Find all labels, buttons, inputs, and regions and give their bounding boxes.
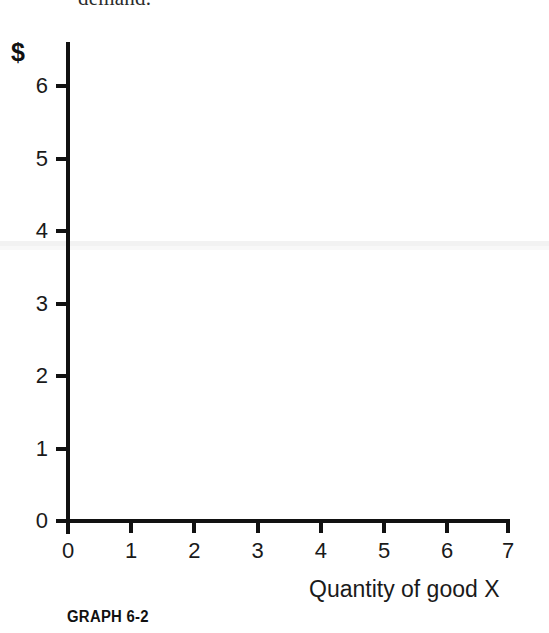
y-tick-label-3: 3 [14,293,48,315]
x-tick-0 [66,521,70,533]
y-tick-3 [56,302,68,306]
y-tick-label-2: 2 [14,365,48,387]
y-tick-label-1: 1 [14,438,48,460]
x-tick-label-4: 4 [306,540,336,562]
x-tick-3 [256,521,260,533]
y-tick-4 [56,229,68,233]
graph-caption: GRAPH 6-2 [67,609,149,625]
x-tick-label-5: 5 [369,540,399,562]
x-tick-label-3: 3 [243,540,273,562]
clipped-body-text: demand. [78,0,151,11]
x-tick-6 [445,521,449,533]
x-tick-label-6: 6 [432,540,462,562]
y-tick-label-5: 5 [14,148,48,170]
y-tick-label-0: 0 [14,510,48,532]
x-tick-label-2: 2 [179,540,209,562]
x-tick-label-0: 0 [53,540,83,562]
x-tick-5 [382,521,386,533]
x-axis-title: Quantity of good X [309,578,500,601]
x-tick-7 [506,521,510,533]
y-tick-1 [56,447,68,451]
y-tick-5 [56,157,68,161]
y-tick-label-6: 6 [14,75,48,97]
graph-figure: demand. 0 1 2 3 4 5 6 0 1 2 3 4 5 6 7 $ … [0,0,549,633]
y-axis-title: $ [11,40,25,65]
y-axis-line [66,42,70,534]
y-tick-label-4: 4 [14,220,48,242]
x-tick-1 [129,521,133,533]
y-tick-2 [56,374,68,378]
x-tick-2 [192,521,196,533]
x-tick-label-7: 7 [493,540,523,562]
y-tick-6 [56,84,68,88]
plot-area [70,42,510,519]
x-tick-label-1: 1 [116,540,146,562]
x-tick-4 [319,521,323,533]
